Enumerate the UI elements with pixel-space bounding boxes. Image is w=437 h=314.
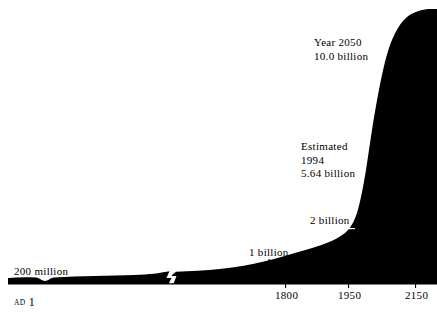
tick-two-billion bbox=[347, 228, 355, 229]
axis-start-year: 1 bbox=[29, 295, 35, 309]
axis-tick-label-1800: 1800 bbox=[275, 289, 298, 301]
annotation-year-2050-line2: 10.0 billion bbox=[314, 50, 368, 64]
tick-year-2050 bbox=[371, 48, 381, 49]
tick-one-billion bbox=[268, 259, 269, 266]
axis-tick-label-2150: 2150 bbox=[405, 289, 428, 301]
annotation-two-billion: 2 billion bbox=[310, 214, 350, 228]
annotation-one-billion: 1 billion bbox=[249, 246, 289, 260]
axis-era-prefix: AD bbox=[14, 298, 26, 307]
annotation-estimated-line1: Estimated bbox=[301, 140, 355, 154]
xtick-1950 bbox=[348, 284, 349, 288]
population-growth-chart: Year 2050 10.0 billion Estimated 1994 5.… bbox=[0, 0, 437, 314]
population-area-path bbox=[8, 9, 437, 284]
axis-label-start-year: AD1 bbox=[14, 292, 35, 310]
baseline-axis bbox=[8, 283, 437, 284]
annotation-two-hundred-million: 200 million bbox=[14, 265, 68, 279]
annotation-estimated-1994: Estimated 1994 5.64 billion bbox=[301, 140, 355, 181]
xtick-2150 bbox=[415, 284, 416, 288]
annotation-estimated-line2: 1994 bbox=[301, 154, 355, 168]
xtick-1800 bbox=[285, 284, 286, 288]
axis-tick-label-1950: 1950 bbox=[338, 289, 361, 301]
annotation-estimated-line3: 5.64 billion bbox=[301, 167, 355, 181]
annotation-year-2050-line1: Year 2050 bbox=[314, 36, 368, 50]
annotation-year-2050: Year 2050 10.0 billion bbox=[314, 36, 368, 63]
